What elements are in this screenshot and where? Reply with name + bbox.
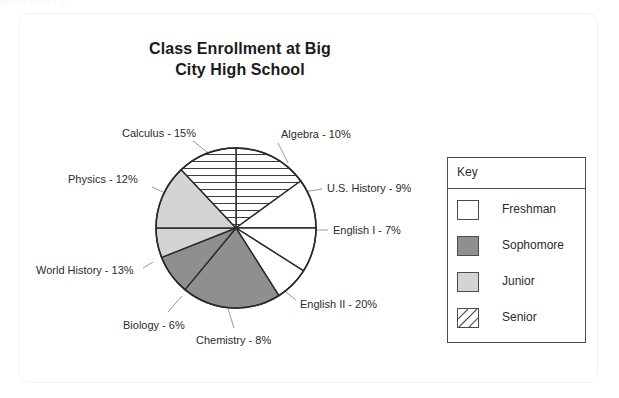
legend-label-freshman: Freshman [502, 202, 556, 216]
chart-legend: Key FreshmanSophomoreJuniorSenior [447, 157, 586, 343]
legend-divider [448, 188, 585, 189]
pie-label-english-i: English I - 7% [333, 224, 401, 237]
leader-line [168, 296, 182, 312]
pie-label-english-ii: English II - 20% [300, 298, 377, 311]
pie-slice-group [156, 148, 316, 308]
pie-label-physics: Physics - 12% [68, 173, 138, 186]
pie-label-calculus: Calculus - 15% [122, 127, 196, 140]
legend-title: Key [457, 165, 478, 179]
pie-label-biology: Biology - 6% [123, 319, 185, 332]
legend-label-sophomore: Sophomore [502, 238, 564, 252]
leader-line [143, 262, 153, 268]
leader-line [228, 309, 234, 328]
legend-swatch-freshman [457, 200, 479, 220]
pie-label-world-history: World History - 13% [36, 264, 134, 277]
legend-item-junior[interactable]: Junior [457, 272, 579, 294]
legend-label-senior: Senior [502, 310, 537, 324]
legend-swatch-senior [457, 308, 479, 328]
legend-label-junior: Junior [502, 274, 535, 288]
legend-swatch-junior [457, 272, 479, 292]
legend-item-sophomore[interactable]: Sophomore [457, 236, 579, 258]
pie-label-chemistry: Chemistry - 8% [196, 334, 271, 347]
legend-swatch-sophomore [457, 236, 479, 256]
pie-label-algebra: Algebra - 10% [281, 128, 351, 141]
pie-label-u-s-history: U.S. History - 9% [327, 182, 411, 195]
chart-page: jjjj jjjj jj jjjj j jj j Class Enrollmen… [0, 0, 619, 398]
legend-item-freshman[interactable]: Freshman [457, 200, 579, 222]
legend-item-senior[interactable]: Senior [457, 308, 579, 330]
